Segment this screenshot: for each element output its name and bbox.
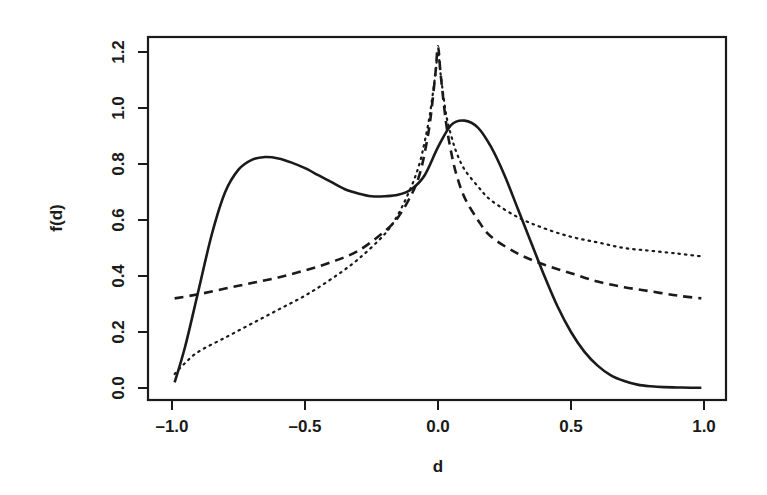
y-tick-label: 0.4: [109, 264, 128, 288]
series-dashed-line: [175, 46, 702, 298]
plot-area: [148, 37, 726, 400]
x-tick-label: 0.5: [559, 417, 583, 436]
y-tick-label: 0.8: [109, 152, 128, 176]
series-group: [175, 46, 702, 387]
series-solid-line: [175, 120, 702, 387]
x-tick-label: –0.5: [288, 417, 321, 436]
y-tick-label: 1.0: [109, 96, 128, 120]
y-axis-title: f(d): [47, 204, 66, 231]
x-tick-label: 1.0: [692, 417, 716, 436]
x-tick-label: 0.0: [426, 417, 450, 436]
y-tick-label: 0.6: [109, 208, 128, 232]
y-axis: 0.00.20.40.60.81.01.2: [109, 40, 148, 400]
plot-frame: [148, 37, 726, 400]
y-tick-label: 0.0: [109, 376, 128, 400]
x-tick-label: –1.0: [155, 417, 188, 436]
y-tick-label: 0.2: [109, 320, 128, 344]
series-dotted-line: [175, 52, 702, 374]
y-tick-label: 1.2: [109, 40, 128, 64]
density-chart: –1.0–0.50.00.51.0 0.00.20.40.60.81.01.2 …: [0, 0, 767, 495]
x-axis-title: d: [433, 457, 443, 476]
x-axis: –1.0–0.50.00.51.0: [155, 400, 715, 436]
